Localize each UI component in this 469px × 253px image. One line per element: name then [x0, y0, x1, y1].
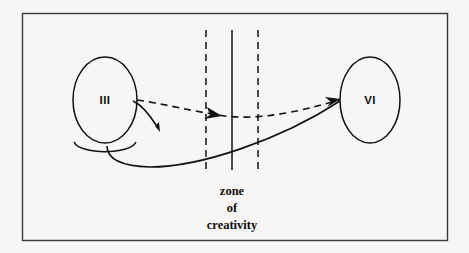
node-stage-three-label: III	[100, 94, 111, 106]
solid-transition-path	[107, 101, 340, 167]
figure-canvas: III VI zone of creativity	[0, 0, 469, 253]
node-stage-six-label: VI	[364, 94, 376, 106]
zone-label-line-2: of	[227, 201, 238, 215]
dashed-transition-path	[137, 100, 339, 117]
zone-label-line-1: zone	[220, 184, 245, 198]
short-curved-arrowhead	[150, 120, 160, 132]
zone-label-line-3: creativity	[207, 218, 258, 232]
diagram-svg: III VI zone of creativity	[0, 0, 469, 253]
